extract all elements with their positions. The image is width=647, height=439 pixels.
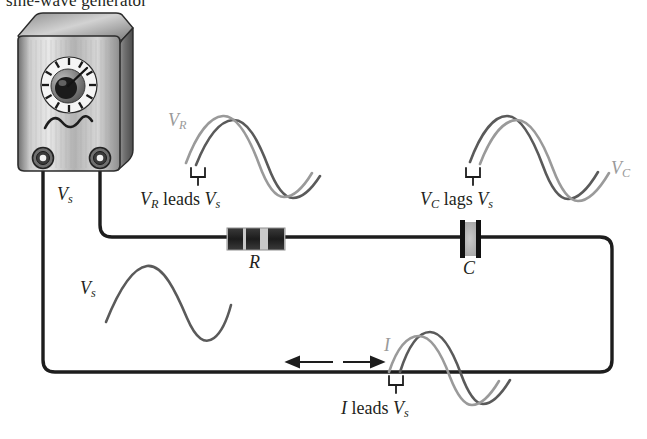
label-vr: VR	[168, 110, 186, 133]
capacitor-symbol	[460, 220, 481, 258]
label-vs-terminal: Vs	[57, 184, 73, 207]
resistor-symbol	[227, 228, 285, 250]
arrow-left-icon	[287, 357, 333, 367]
vr-phase-bracket	[191, 168, 205, 185]
generator-terminal-right[interactable]	[90, 148, 111, 169]
current-direction-arrows	[287, 357, 383, 367]
caption-i-leads-vs: I leads Vs	[341, 398, 409, 421]
waveform-i-reference-vs	[400, 332, 510, 404]
label-vc: VC	[611, 158, 630, 181]
waveform-vs-source	[106, 266, 231, 341]
signal-generator	[18, 13, 133, 171]
waveform-vc-reference-vs	[470, 116, 598, 199]
vc-phase-bracket	[466, 168, 480, 185]
label-capacitor: C	[463, 258, 475, 279]
circuit-wire	[43, 162, 612, 372]
i-phase-bracket	[389, 376, 403, 393]
label-resistor: R	[249, 252, 260, 273]
label-vs-waveform: Vs	[80, 278, 96, 301]
caption-vc-lags-vs: VC lags Vs	[420, 189, 493, 212]
label-current: I	[384, 335, 390, 356]
waveform-vc	[480, 120, 609, 201]
arrow-right-icon	[343, 357, 383, 367]
generator-terminal-left[interactable]	[33, 148, 54, 169]
caption-vr-leads-vs: VR leads Vs	[140, 189, 220, 212]
circuit-illustration	[0, 0, 647, 439]
generator-dial[interactable]	[41, 57, 97, 113]
figure-canvas: sine-wave generator	[0, 0, 647, 439]
